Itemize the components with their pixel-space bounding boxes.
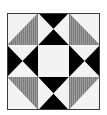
cell-center (38, 45, 69, 77)
cell-bottom-right (69, 77, 100, 110)
cell-top-left (7, 13, 38, 45)
quilt-block (7, 13, 100, 110)
cell-middle-right (69, 45, 100, 77)
cell-bottom-left (7, 77, 38, 110)
cell-top-right (69, 13, 100, 45)
cell-middle-left (7, 45, 38, 77)
cell-bottom-center (38, 77, 69, 110)
quilt-block-graphic (7, 13, 100, 110)
cell-top-center (38, 13, 69, 45)
